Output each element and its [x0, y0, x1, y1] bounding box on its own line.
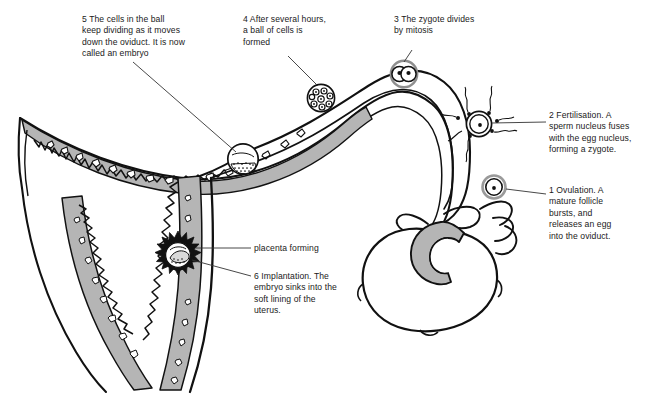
callout-implantation: 6 Implantation. The embryo sinks into th…	[254, 271, 374, 317]
diagram-canvas: 5 The cells in the ball keep dividing as…	[0, 0, 651, 402]
callout-zygote-divides: 3 The zygote divides by mitosis	[394, 14, 519, 37]
leader-line-2	[492, 122, 546, 123]
leader-line-1	[506, 189, 546, 194]
leader-line-5	[133, 62, 236, 152]
egg-cell-ovulation	[483, 176, 506, 199]
morula	[307, 84, 334, 111]
callout-ovulation: 1 Ovulation. A mature follicle bursts, a…	[549, 185, 645, 242]
callout-ball-of-cells: 4 After several hours, a ball of cells i…	[243, 14, 363, 48]
leader-line-4	[288, 56, 318, 86]
callout-embryo: 5 The cells in the ball keep dividing as…	[82, 14, 232, 60]
implanted-embryo	[155, 231, 201, 275]
callout-placenta-forming: placenta forming	[254, 243, 384, 254]
uterus-lower-walls	[22, 176, 213, 396]
two-cell-zygote	[391, 61, 417, 87]
callout-fertilisation: 2 Fertilisation. A sperm nucleus fuses w…	[549, 110, 647, 156]
